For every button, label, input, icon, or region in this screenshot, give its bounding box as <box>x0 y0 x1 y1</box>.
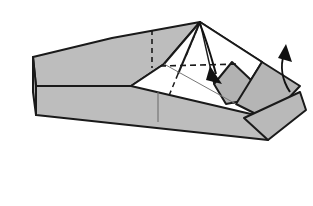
origami-diagram-svg <box>0 0 313 150</box>
step-caption-block: 5 Raise the other side of the box. The p… <box>0 145 313 206</box>
rotate-up-arrow-head-icon <box>278 44 292 62</box>
origami-diagram <box>0 0 313 150</box>
